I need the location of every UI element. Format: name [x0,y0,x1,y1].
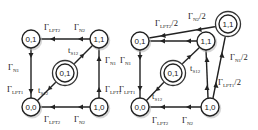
transition-rate-label: ΓN2 [74,22,86,33]
state-node-s01: 0,1 [22,30,42,51]
state-label: 1,0 [204,103,216,112]
state-label: 1,1 [222,20,234,29]
transition-rate-label: ΓLPT1 [7,84,24,95]
transition-rate-label: ΓLPT2/2 [155,18,178,29]
state-label: 0,1 [167,69,179,78]
transition-rate-label: ΓN2/2 [188,11,206,22]
transition-rate-label: ΓLPT1/2 [218,77,241,88]
state-node-c01: 0,1 [50,58,80,88]
state-node-s10: 1,0 [90,98,110,119]
transition-rate-label: tS12 [68,45,79,56]
transition-rate-label: ΓN1 [120,55,132,66]
transition-rate-label: ΓLPT2 [44,22,61,33]
transition-rate-label: tS12 [38,85,49,96]
state-label: 0,1 [134,37,146,46]
state-node-s00: 0,0 [131,98,151,119]
transition-rate-label: ΓLPT2 [44,114,61,125]
state-node-s01: 0,1 [131,32,151,53]
state-node-s11: 1,1 [90,30,110,51]
state-label: 1,0 [93,103,105,112]
state-node-s11: 1,1 [197,32,217,53]
state-label: 0,0 [25,103,37,112]
state-label: 1,1 [200,37,212,46]
state-label: 0,0 [134,103,146,112]
state-label: 1,1 [93,35,105,44]
transition-rate-label: ΓLPT1 [119,84,136,95]
transition-rate-label: tS12 [190,63,201,74]
nodes-layer: 0,11,10,01,00,10,11,11,10,01,00,1 [22,9,243,119]
transition-rate-label: ΓN1 [8,62,20,73]
state-node-s00: 0,0 [22,98,42,119]
transition-rate-label: ΓLPT2 [152,115,169,126]
transition-rate-label: ΓN2 [182,115,194,126]
transition-rate-label: ΓN2 [74,114,86,125]
state-node-s11b: 1,1 [213,9,243,39]
state-node-s10: 1,0 [201,98,221,119]
state-node-c01: 0,1 [158,58,188,88]
transition-rate-label: tS12 [152,91,163,102]
state-transition-diagrams: 0,11,10,01,00,10,11,11,10,01,00,1 ΓLPT2Γ… [0,0,258,130]
transition-rate-label: ΓN1 [105,55,117,66]
state-label: 0,1 [59,69,71,78]
transition-rate-label: ΓN1/2 [230,52,248,63]
state-label: 0,1 [25,35,37,44]
